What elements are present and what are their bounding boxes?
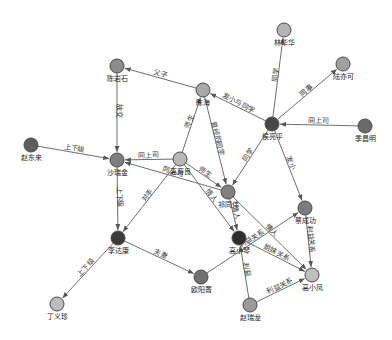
node-circle[interactable] xyxy=(221,185,235,199)
node-circle[interactable] xyxy=(110,59,124,73)
edge: 同事 xyxy=(277,69,337,119)
edge-label: 同事 xyxy=(298,82,315,98)
edge-label: 同上司 xyxy=(138,150,159,159)
edge: 师生 xyxy=(186,163,222,188)
node-qtc[interactable]: 祁同伟 xyxy=(218,185,239,209)
node-lda[interactable]: 李达康 xyxy=(108,231,129,255)
edge-label: 师生 xyxy=(197,164,214,179)
node-circle[interactable] xyxy=(298,201,312,215)
edge: 利益关系 xyxy=(256,276,304,302)
node-qrj[interactable]: 沙瑞金 xyxy=(107,153,128,177)
edge-label: 上下级 xyxy=(75,257,96,279)
edge: 父子 xyxy=(125,68,197,88)
edge-label: 故交 xyxy=(115,104,124,118)
node-label: 丁义珍 xyxy=(47,312,68,321)
edge: 夫妻 xyxy=(124,241,193,274)
node-circle[interactable] xyxy=(265,117,279,131)
node-label: 欧阳菁 xyxy=(191,285,212,294)
edge-label: 利益关系 xyxy=(265,276,294,296)
node-circle[interactable] xyxy=(50,297,64,311)
edge-label: 同学 xyxy=(240,146,255,163)
node-label: 陆亦可 xyxy=(333,72,354,81)
edge: 发小 xyxy=(275,131,303,201)
edge-label: 父子 xyxy=(153,68,169,79)
node-label: 陈海 xyxy=(196,98,210,107)
edge: 同上司 xyxy=(280,116,358,126)
node-circle[interactable] xyxy=(305,268,319,282)
node-circle[interactable] xyxy=(336,57,350,71)
node-label: 季昌明 xyxy=(355,134,376,143)
edge-label: 同学 xyxy=(270,67,281,82)
node-zdl[interactable]: 赵东来 xyxy=(21,138,42,162)
node-label: 沙瑞金 xyxy=(107,168,128,177)
edge-label: 对手 xyxy=(139,187,155,204)
edge-label: 曾经的同学 xyxy=(209,120,226,156)
node-circle[interactable] xyxy=(173,152,187,166)
node-circle[interactable] xyxy=(243,298,257,312)
node-chs[interactable]: 陈岩石 xyxy=(107,59,128,83)
nodes-layer: 林华华陆亦可陈岩石陈海侯亮平季昌明赵东来沙瑞金高育良祁同伟蔡成功李达康高小琴欧阳… xyxy=(21,23,376,322)
edge-label: 夫妻 xyxy=(152,246,168,260)
node-label: 高小琴 xyxy=(229,246,250,255)
node-label: 侯亮平 xyxy=(262,132,283,141)
node-circle[interactable] xyxy=(277,23,291,37)
edge-label: 利益 xyxy=(241,261,252,276)
edge: 对手 xyxy=(123,165,176,232)
edge-label: 上下级 xyxy=(63,142,85,154)
node-label: 陈岩石 xyxy=(107,74,128,83)
edge-label: 发小 xyxy=(284,155,297,171)
edge: 发小与同学 xyxy=(210,91,266,121)
node-ljh[interactable]: 林华华 xyxy=(274,23,295,47)
node-label: 蔡成功 xyxy=(295,216,316,225)
node-circle[interactable] xyxy=(196,83,210,97)
edge: 上下级 xyxy=(38,142,109,159)
edge-label: 师生 xyxy=(183,114,196,130)
edge: 同上司 xyxy=(125,150,173,160)
node-jqm[interactable]: 季昌明 xyxy=(355,119,376,143)
node-circle[interactable] xyxy=(111,231,125,245)
edge: 利益关系 xyxy=(207,212,299,273)
node-circle[interactable] xyxy=(24,138,38,152)
node-circle[interactable] xyxy=(358,119,372,133)
edge-label: 情人 xyxy=(264,222,280,238)
node-label: 高育良 xyxy=(170,167,191,176)
edge: 上下级 xyxy=(62,243,113,298)
node-label: 祁同伟 xyxy=(218,200,239,209)
node-dys[interactable]: 丁义珍 xyxy=(47,297,68,321)
node-label: 赵东来 xyxy=(21,153,42,162)
edge: 同学 xyxy=(270,38,283,117)
node-label: 李达康 xyxy=(108,246,129,255)
node-circle[interactable] xyxy=(194,270,208,284)
relationship-graph: 同学同事同上司发小与同学同学发小父子故交上下级同上司师生曾经的同学师生同上司对手… xyxy=(0,0,392,340)
node-circle[interactable] xyxy=(232,231,246,245)
node-label: 高小凤 xyxy=(302,283,323,292)
edge-label: 同上司 xyxy=(308,116,329,125)
edge-label: 上下级 xyxy=(115,186,124,207)
edge: 故交 xyxy=(115,73,124,152)
node-lkk[interactable]: 陆亦可 xyxy=(333,57,354,81)
node-label: 林华华 xyxy=(274,38,295,47)
edge: 姐妹关系 xyxy=(245,241,305,271)
edge-label: 发小与同学 xyxy=(221,91,256,115)
node-label: 赵瑞龙 xyxy=(240,313,261,322)
node-cy[interactable]: 陈海 xyxy=(196,83,210,107)
edge-label: 利益关系 xyxy=(305,225,317,254)
edges-layer: 同学同事同上司发小与同学同学发小父子故交上下级同上司师生曾经的同学师生同上司对手… xyxy=(38,38,358,302)
node-circle[interactable] xyxy=(110,153,124,167)
